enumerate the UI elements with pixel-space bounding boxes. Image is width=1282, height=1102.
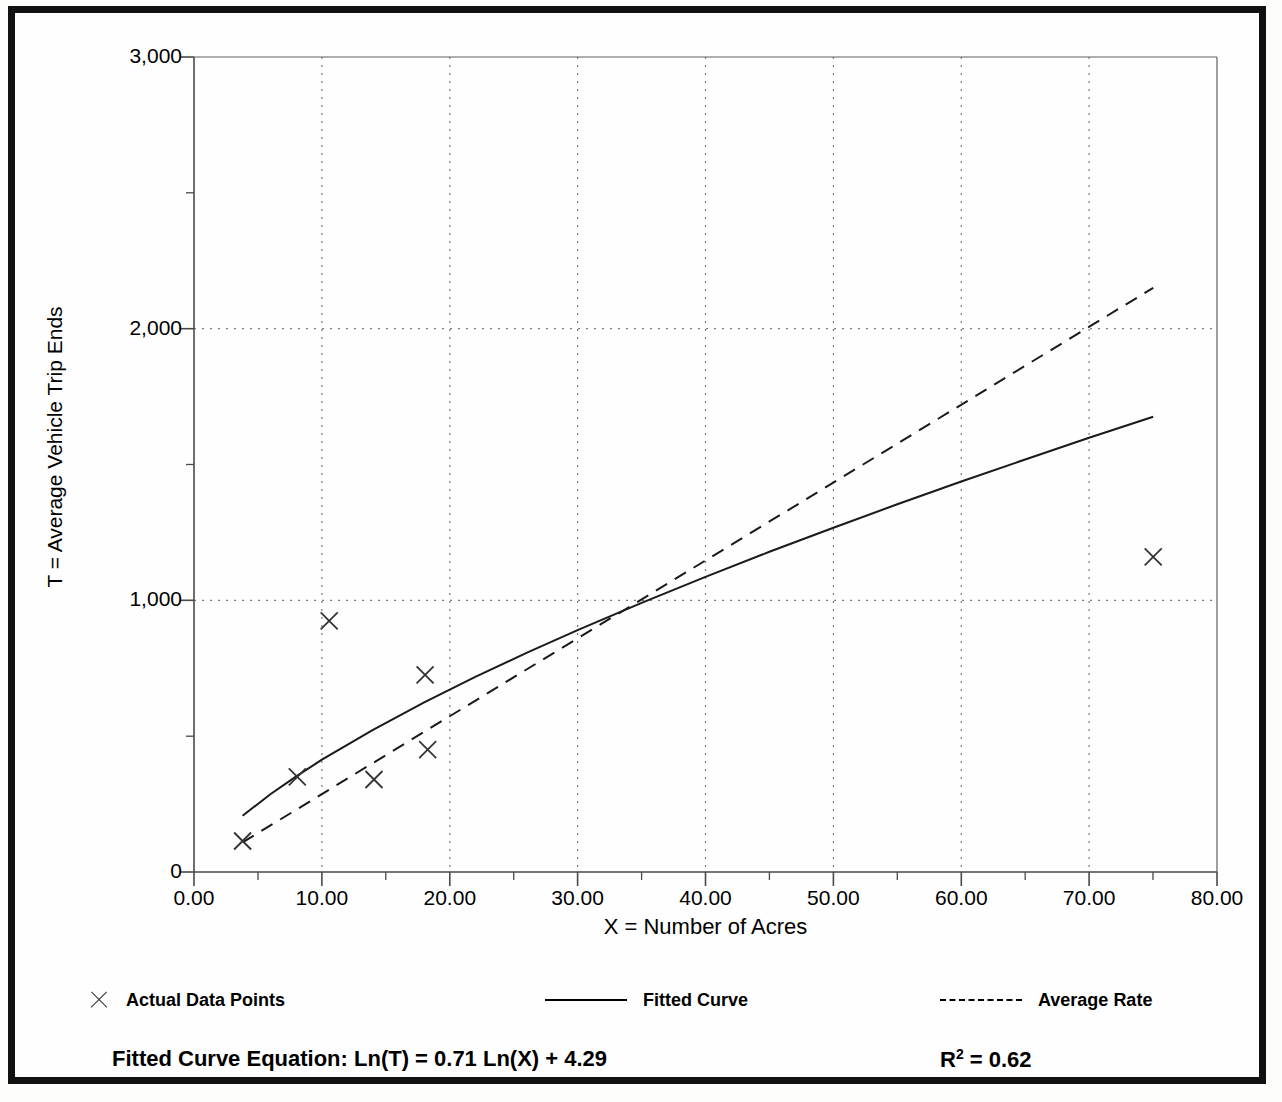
- x-marker-icon: [88, 989, 110, 1011]
- x-axis-major-ticks: [194, 872, 1217, 886]
- data-point-marker: [366, 771, 383, 788]
- y-axis-minor-ticks: [186, 193, 194, 736]
- dashed-line-icon: [940, 999, 1022, 1001]
- x-tick-label-80: 80.00: [1157, 886, 1277, 910]
- chart-page: 3,000 2,000 1,000 0 0.00 10.00 20.00 30.…: [0, 0, 1282, 1102]
- series-average-rate-line: [243, 288, 1154, 843]
- x-tick-label-0: 0.00: [134, 886, 254, 910]
- data-point-marker: [289, 768, 306, 785]
- y-tick-label-2000: 2,000: [82, 316, 182, 340]
- data-point-marker: [1145, 548, 1162, 565]
- x-tick-label-10: 10.00: [262, 886, 382, 910]
- data-point-marker: [417, 666, 434, 683]
- data-point-marker: [321, 612, 338, 629]
- legend-label-fitted-curve: Fitted Curve: [643, 990, 748, 1011]
- series-fitted-curve-line: [243, 417, 1154, 816]
- legend-item-average-rate: Average Rate: [940, 985, 1152, 1015]
- x-tick-label-60: 60.00: [901, 886, 1021, 910]
- x-tick-label-50: 50.00: [773, 886, 893, 910]
- solid-line-icon: [545, 999, 627, 1001]
- r-squared-exponent: 2: [956, 1046, 964, 1062]
- x-tick-label-70: 70.00: [1029, 886, 1149, 910]
- y-axis-tick-labels: 3,000 2,000 1,000 0: [78, 0, 182, 900]
- y-axis-title: T = Average Vehicle Trip Ends: [43, 297, 67, 597]
- legend-label-average-rate: Average Rate: [1038, 990, 1152, 1011]
- chart-canvas: 3,000 2,000 1,000 0 0.00 10.00 20.00 30.…: [0, 0, 1282, 1102]
- legend-item-actual-data-points: Actual Data Points: [88, 985, 285, 1015]
- x-tick-label-40: 40.00: [646, 886, 766, 910]
- r-squared-number: = 0.62: [970, 1047, 1032, 1072]
- fitted-curve-equation: Fitted Curve Equation: Ln(T) = 0.71 Ln(X…: [112, 1046, 607, 1072]
- vertical-gridlines: [322, 57, 1089, 872]
- legend-label-actual-data-points: Actual Data Points: [126, 990, 285, 1011]
- data-point-marker: [419, 741, 436, 758]
- r-squared-value: R2 = 0.62: [940, 1046, 1032, 1073]
- x-axis-title: X = Number of Acres: [194, 914, 1217, 940]
- equation-footer: Fitted Curve Equation: Ln(T) = 0.71 Ln(X…: [60, 1046, 1220, 1086]
- plot-frame: [194, 57, 1217, 872]
- x-tick-label-30: 30.00: [518, 886, 638, 910]
- data-point-marker: [234, 833, 251, 850]
- x-tick-label-20: 20.00: [390, 886, 510, 910]
- y-tick-label-3000: 3,000: [82, 44, 182, 68]
- legend-item-fitted-curve: Fitted Curve: [545, 985, 748, 1015]
- chart-legend: Actual Data Points Fitted Curve Average …: [60, 985, 1220, 1025]
- r-squared-letter: R: [940, 1047, 956, 1072]
- series-actual-data-points: [234, 548, 1162, 849]
- y-tick-label-0: 0: [82, 859, 182, 883]
- y-tick-label-1000: 1,000: [82, 587, 182, 611]
